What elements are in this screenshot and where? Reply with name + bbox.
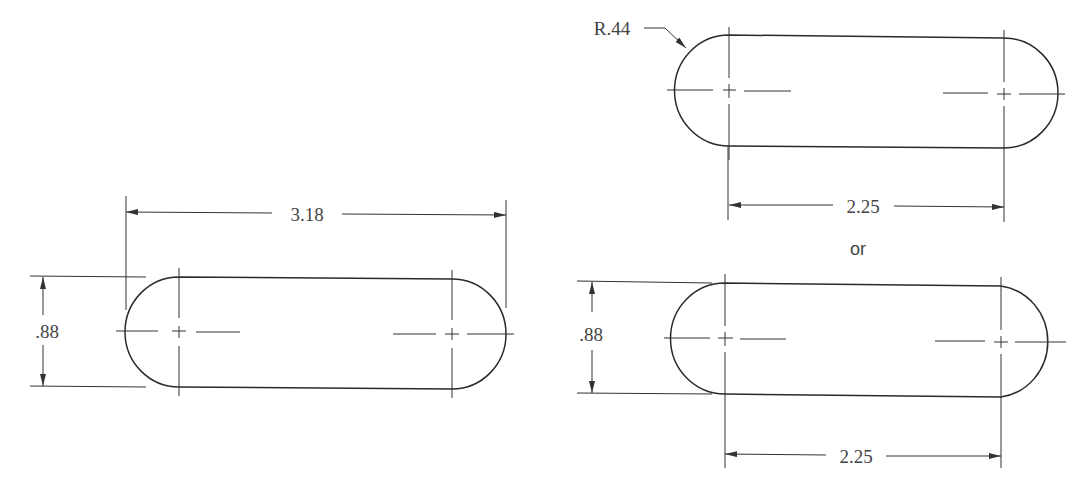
top-right-center-distance-dimension: 2.25: [729, 196, 1004, 217]
bottom-right-slot-centerlines: [664, 274, 1066, 468]
left-overall-length-dimension: 3.18: [126, 196, 506, 310]
drawing-canvas: 3.18 .88: [0, 0, 1092, 482]
left-height-label: .88: [35, 321, 59, 342]
bottom-right-height-label: .88: [579, 324, 603, 345]
top-right-slot-outline: [675, 35, 1058, 148]
top-right-slot-centerlines: [667, 27, 1065, 222]
bottom-right-center-distance-dimension: 2.25: [725, 446, 1001, 467]
bottom-right-slot-outline: [671, 283, 1048, 397]
radius-label: R.44: [594, 18, 631, 39]
top-right-center-distance-label: 2.25: [846, 196, 879, 217]
left-slot-outline: [125, 277, 506, 389]
top-right-slot-view: R.44 2.25: [594, 18, 1065, 222]
bottom-right-slot-view: .88 2.25: [577, 274, 1066, 468]
or-separator-label: or: [850, 239, 866, 259]
left-slot-view: 3.18 .88: [30, 196, 514, 398]
left-slot-centerlines: [116, 268, 514, 398]
radius-leader: R.44: [594, 18, 686, 48]
bottom-right-center-distance-label: 2.25: [839, 446, 872, 467]
overall-length-label: 3.18: [290, 204, 323, 225]
